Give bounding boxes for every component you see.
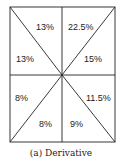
region-label: 9% (70, 119, 83, 129)
derivative-diagram: 13% 22.5% 13% 15% 8% 11.5% 8% 9% (a) Der… (0, 0, 122, 165)
region-label: 8% (15, 93, 28, 103)
region-label: 15% (84, 54, 102, 64)
diagonal-bottom-right (62, 75, 115, 142)
region-label: 8% (39, 119, 52, 129)
region-label: 11.5% (86, 93, 111, 103)
figure-caption: (a) Derivative (0, 148, 122, 158)
diagonal-top-right (62, 7, 115, 75)
partition-diagram: 13% 22.5% 13% 15% 8% 11.5% 8% 9% (0, 0, 122, 165)
diagonal-bottom-left (10, 75, 62, 142)
region-label: 22.5% (68, 22, 94, 32)
region-label: 13% (16, 54, 34, 64)
region-label: 13% (36, 22, 54, 32)
diagonal-top-left (10, 7, 62, 75)
